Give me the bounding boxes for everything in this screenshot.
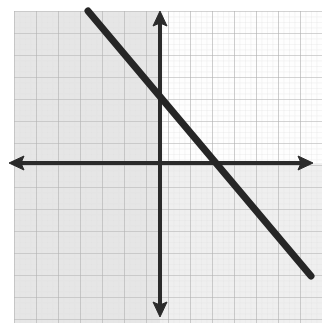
grid-lines <box>14 11 322 323</box>
coordinate-plane <box>0 0 322 323</box>
grid-group <box>14 11 322 323</box>
graph-figure <box>0 0 322 323</box>
graph-svg <box>0 0 322 323</box>
